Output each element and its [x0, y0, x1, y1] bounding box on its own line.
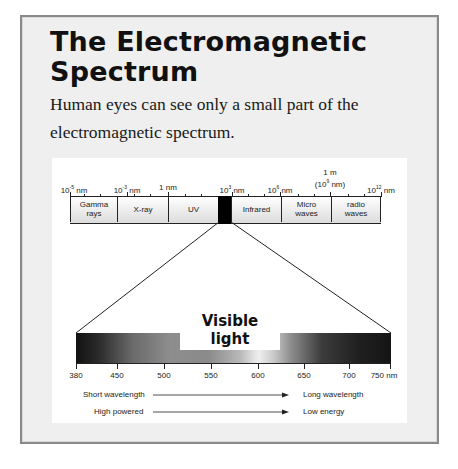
visible-axis-label: 550 — [204, 371, 217, 380]
visible-axis-label: 600 — [251, 371, 264, 380]
visible-axis-tick — [164, 363, 165, 369]
visible-axis-tick — [390, 363, 391, 369]
visible-axis-tick — [211, 363, 212, 369]
legend-short-wavelength: Short wavelength — [83, 390, 145, 399]
visible-axis-label: 650 — [297, 371, 310, 380]
visible-axis-tick — [349, 363, 350, 369]
visible-axis-label: 750 nm — [371, 371, 398, 380]
visible-axis-tick — [117, 363, 118, 369]
zoom-lines — [0, 0, 458, 469]
visible-axis-tick — [304, 363, 305, 369]
legend-low-energy: Low energy — [303, 407, 344, 416]
visible-axis-label: 500 — [157, 371, 170, 380]
visible-axis-tick — [258, 363, 259, 369]
visible-axis-tick — [76, 363, 77, 369]
visible-axis-label: 700 — [342, 371, 355, 380]
legend-high-powered: High powered — [94, 407, 143, 416]
visible-light-axis — [76, 363, 391, 370]
visible-axis-label: 380 — [69, 371, 82, 380]
visible-axis-label: 450 — [110, 371, 123, 380]
visible-light-title: Visible light — [180, 310, 280, 350]
legend-long-wavelength: Long wavelength — [303, 390, 364, 399]
